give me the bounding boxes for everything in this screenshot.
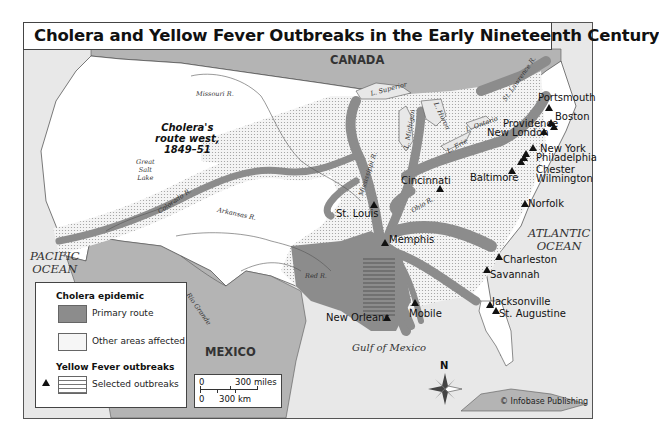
city-savannah: Savannah [490,269,540,280]
yellow-fever-hatch [363,256,395,316]
city-new-london: New London [487,127,549,138]
legend-cholera-heading: Cholera epidemic [56,291,144,301]
cholera-route-west-annotation: Cholera's route west, 1849–51 [155,122,220,155]
city-charleston: Charleston [503,254,557,265]
label-gulf-of-mexico: Gulf of Mexico [352,342,426,353]
label-red-river: Red R. [305,272,327,280]
legend-hatch-swatch [58,376,87,394]
legend-other-areas-label: Other areas affected [92,336,185,346]
city-jacksonville: Jacksonville [492,296,550,307]
city-boston: Boston [555,111,590,122]
legend-yellow-fever-heading: Yellow Fever outbreaks [56,362,174,372]
city-st-louis: St. Louis [336,208,378,219]
label-great-salt-lake: GreatSaltLake [136,158,155,182]
legend-other-areas-swatch [58,333,87,351]
city-portsmouth: Portsmouth [538,92,596,103]
city-cincinnati: Cincinnati [401,175,451,186]
compass-north-label: N [440,360,448,371]
title-box: Cholera and Yellow Fever Outbreaks in th… [23,22,552,50]
legend-primary-route-swatch [58,305,87,323]
legend-selected-outbreaks-label: Selected outbreaks [92,379,179,389]
triangle-marker-icon [42,379,50,386]
label-missouri-river: Missouri R. [196,90,234,98]
city-new-orleans: New Orleans [326,312,390,323]
city-mobile: Mobile [409,308,442,319]
city-memphis: Memphis [389,234,434,245]
city-philadelphia: Philadelphia [536,152,597,163]
legend: Cholera epidemic Primary route Other are… [35,282,187,408]
label-atlantic-ocean: ATLANTICOCEAN [528,227,590,253]
map-title: Cholera and Yellow Fever Outbreaks in th… [34,26,659,45]
label-canada: CANADA [330,53,384,67]
label-mexico: MEXICO [205,345,256,359]
legend-primary-route-label: Primary route [92,308,153,318]
city-st-augustine: St. Augustine [499,308,566,319]
city-norfolk: Norfolk [528,198,564,209]
scale-bar: 0 300 miles 0 300 km [194,374,282,408]
city-wilmington: Wilmington [536,173,593,184]
publisher-credit: © Infobase Publishing [500,397,588,406]
city-baltimore: Baltimore [470,172,518,183]
label-pacific-ocean: PACIFICOCEAN [30,250,80,276]
